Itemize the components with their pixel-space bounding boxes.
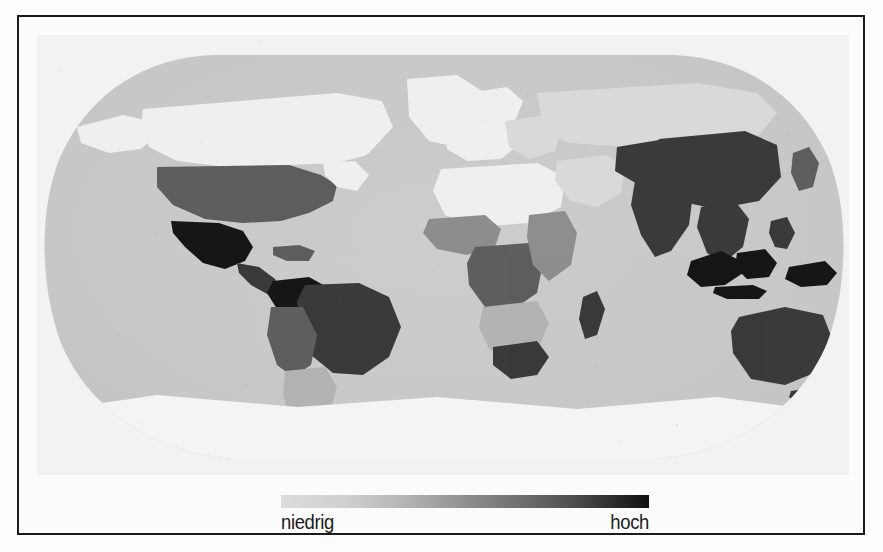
- world-map: [37, 35, 849, 475]
- legend-low-label: niedrig: [281, 510, 334, 534]
- map-legend: niedrig hoch: [281, 495, 649, 539]
- legend-gradient-bar: [281, 495, 649, 508]
- world-map-svg: [37, 35, 849, 475]
- legend-high-label: hoch: [610, 510, 649, 534]
- globe: [37, 35, 849, 475]
- figure-frame: niedrig hoch: [17, 15, 865, 535]
- legend-labels: niedrig hoch: [281, 510, 649, 534]
- figure-panel: niedrig hoch: [0, 0, 883, 552]
